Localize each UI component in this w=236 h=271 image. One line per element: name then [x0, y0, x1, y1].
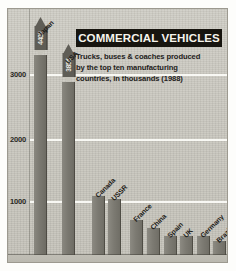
y-axis-tick-2000: 2000	[10, 135, 26, 144]
title-banner: COMMERCIAL VEHICLES	[76, 29, 222, 47]
bar-canada[interactable]	[92, 196, 105, 255]
chart-frame: 3000 2000 1000 4488Japan3855USACanadaUSS…	[7, 8, 228, 263]
subtitle-line-1: Trucks, buses & coaches produced	[76, 51, 226, 62]
bar-ussr[interactable]	[108, 199, 121, 255]
gridline-1000	[30, 201, 227, 203]
chart-figure: 3000 2000 1000 4488Japan3855USACanadaUSS…	[0, 0, 236, 271]
subtitle-block: Trucks, buses & coaches produced by the …	[76, 51, 226, 84]
bar-usa[interactable]	[62, 82, 75, 255]
subtitle-line-2: by the top ten manufacturing	[76, 62, 226, 73]
y-axis-tick-1000: 1000	[10, 197, 26, 206]
bar-france[interactable]	[130, 220, 143, 255]
bar-label-brazil: Brazil	[215, 226, 228, 244]
chart-floor	[8, 255, 228, 263]
y-axis-line	[29, 9, 30, 263]
page-title: COMMERCIAL VEHICLES	[78, 32, 220, 44]
subtitle-line-3: countries, in thousands (1988)	[76, 73, 226, 84]
gridline-2000	[30, 139, 227, 141]
y-axis-tick-3000: 3000	[10, 70, 26, 79]
bar-japan[interactable]	[34, 55, 47, 255]
plot-area: 3000 2000 1000 4488Japan3855USACanadaUSS…	[8, 9, 228, 263]
bar-china[interactable]	[147, 228, 160, 255]
